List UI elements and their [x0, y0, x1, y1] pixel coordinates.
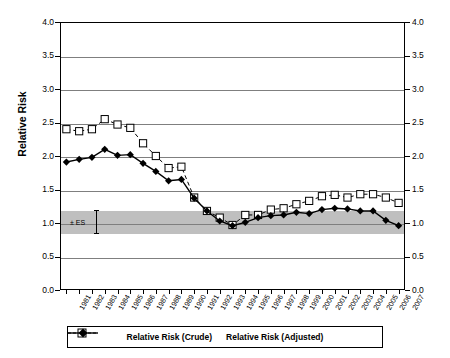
data-point-crude[interactable] — [63, 126, 70, 133]
legend-marker-filled-diamond-icon — [68, 327, 98, 339]
data-point-crude[interactable] — [178, 163, 185, 170]
data-point-adjusted[interactable] — [357, 207, 364, 214]
data-point-adjusted[interactable] — [114, 152, 121, 159]
data-point-adjusted[interactable] — [306, 210, 313, 217]
data-point-adjusted[interactable] — [63, 158, 70, 165]
legend-item-crude[interactable]: Relative Risk (Crude) — [127, 332, 213, 342]
data-point-adjusted[interactable] — [280, 211, 287, 218]
data-point-crude[interactable] — [344, 194, 351, 201]
data-point-adjusted[interactable] — [293, 209, 300, 216]
data-point-crude[interactable] — [357, 191, 364, 198]
es-error-bar — [96, 210, 97, 233]
data-point-crude[interactable] — [101, 116, 108, 123]
chart-container: Relative Risk 0.00.00.50.51.01.01.51.52.… — [0, 0, 450, 358]
data-point-crude[interactable] — [280, 205, 287, 212]
data-point-crude[interactable] — [395, 199, 402, 206]
data-point-crude[interactable] — [382, 194, 389, 201]
data-point-crude[interactable] — [293, 201, 300, 208]
data-point-crude[interactable] — [306, 197, 313, 204]
series-layer — [0, 0, 450, 358]
es-error-bar-cap-bottom — [94, 233, 99, 234]
data-point-adjusted[interactable] — [101, 146, 108, 153]
data-point-crude[interactable] — [76, 128, 83, 135]
data-point-crude[interactable] — [318, 193, 325, 200]
data-point-crude[interactable] — [242, 211, 249, 218]
data-point-crude[interactable] — [152, 152, 159, 159]
legend-label-adjusted: Relative Risk (Adjusted) — [226, 332, 323, 342]
es-error-bar-cap-top — [94, 210, 99, 211]
legend-label-crude: Relative Risk (Crude) — [127, 332, 213, 342]
data-point-adjusted[interactable] — [344, 205, 351, 212]
data-point-crude[interactable] — [165, 164, 172, 171]
data-point-adjusted[interactable] — [88, 154, 95, 161]
chart-legend: Relative Risk (Crude) Relative Risk (Adj… — [67, 326, 383, 348]
data-point-adjusted[interactable] — [242, 219, 249, 226]
legend-item-adjusted[interactable]: Relative Risk (Adjusted) — [226, 332, 323, 342]
series-line-adjusted — [66, 149, 398, 225]
data-point-crude[interactable] — [331, 191, 338, 198]
data-point-crude[interactable] — [88, 126, 95, 133]
data-point-adjusted[interactable] — [318, 206, 325, 213]
data-point-adjusted[interactable] — [395, 222, 402, 229]
data-point-crude[interactable] — [369, 191, 376, 198]
data-point-crude[interactable] — [139, 140, 146, 147]
es-label: ± ES — [70, 219, 85, 226]
data-point-adjusted[interactable] — [76, 156, 83, 163]
data-point-crude[interactable] — [127, 124, 134, 131]
data-point-crude[interactable] — [114, 121, 121, 128]
data-point-adjusted[interactable] — [331, 205, 338, 212]
